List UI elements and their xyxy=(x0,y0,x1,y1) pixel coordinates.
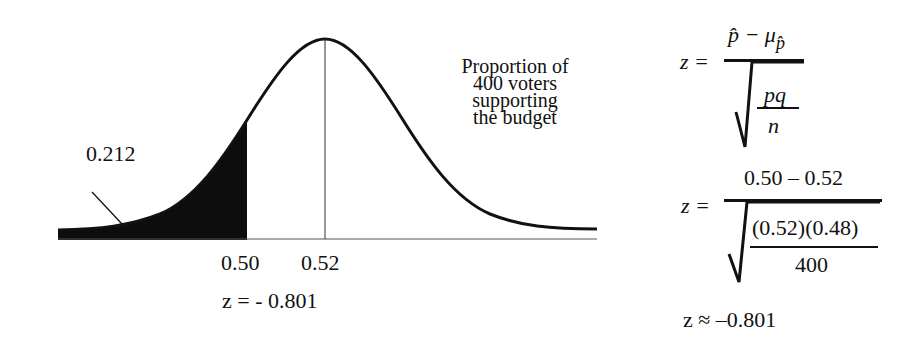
formula-result: z ≈ –0.801 xyxy=(683,307,776,333)
sqrt-sign-icon xyxy=(0,0,922,356)
formula2-den-num: (0.52)(0.48) xyxy=(752,215,858,241)
inner-fraction-bar xyxy=(750,246,878,248)
formula2-den-den: 400 xyxy=(795,252,828,278)
